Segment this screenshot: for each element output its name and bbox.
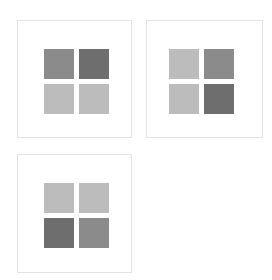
panel-1: [17, 20, 132, 138]
tile-top-left: [169, 49, 199, 79]
tile-bottom-right: [204, 84, 234, 114]
tile-grid: [44, 49, 109, 114]
tile-top-left: [44, 49, 74, 79]
panel-2: [146, 20, 263, 138]
tile-grid: [44, 183, 109, 248]
tile-top-right: [79, 49, 109, 79]
panel-3: [17, 154, 132, 273]
tile-grid: [169, 49, 234, 114]
tile-bottom-right: [79, 218, 109, 248]
tile-top-left: [44, 183, 74, 213]
tile-bottom-left: [44, 218, 74, 248]
tile-bottom-left: [169, 84, 199, 114]
tile-top-right: [79, 183, 109, 213]
tile-bottom-left: [44, 84, 74, 114]
tile-bottom-right: [79, 84, 109, 114]
tile-top-right: [204, 49, 234, 79]
